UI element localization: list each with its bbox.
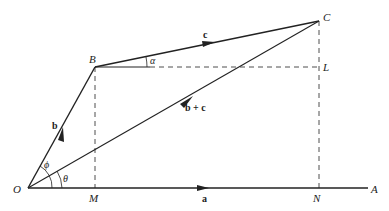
vector-diagram: O B C L M N A a b c b + c α ϕ θ <box>0 0 389 211</box>
label-theta: θ <box>63 173 68 184</box>
label-O: O <box>13 183 21 195</box>
label-phi: ϕ <box>44 159 49 170</box>
vector-b-line <box>28 67 95 188</box>
label-vector-b: b <box>52 120 58 131</box>
arrowhead-c <box>202 41 215 47</box>
label-vector-c: c <box>203 29 208 40</box>
label-vector-a: a <box>202 193 207 204</box>
label-B: B <box>89 53 96 65</box>
label-A: A <box>370 183 378 195</box>
label-L: L <box>322 61 329 73</box>
label-C: C <box>323 11 331 23</box>
angle-arc-theta <box>57 171 62 188</box>
label-N: N <box>312 192 321 204</box>
angle-arc-alpha <box>146 57 147 67</box>
vector-bc-line <box>28 21 319 188</box>
label-alpha: α <box>150 55 156 66</box>
arrowhead-a <box>197 185 209 191</box>
label-vector-b-plus-c: b + c <box>185 102 206 113</box>
label-M: M <box>88 192 99 204</box>
